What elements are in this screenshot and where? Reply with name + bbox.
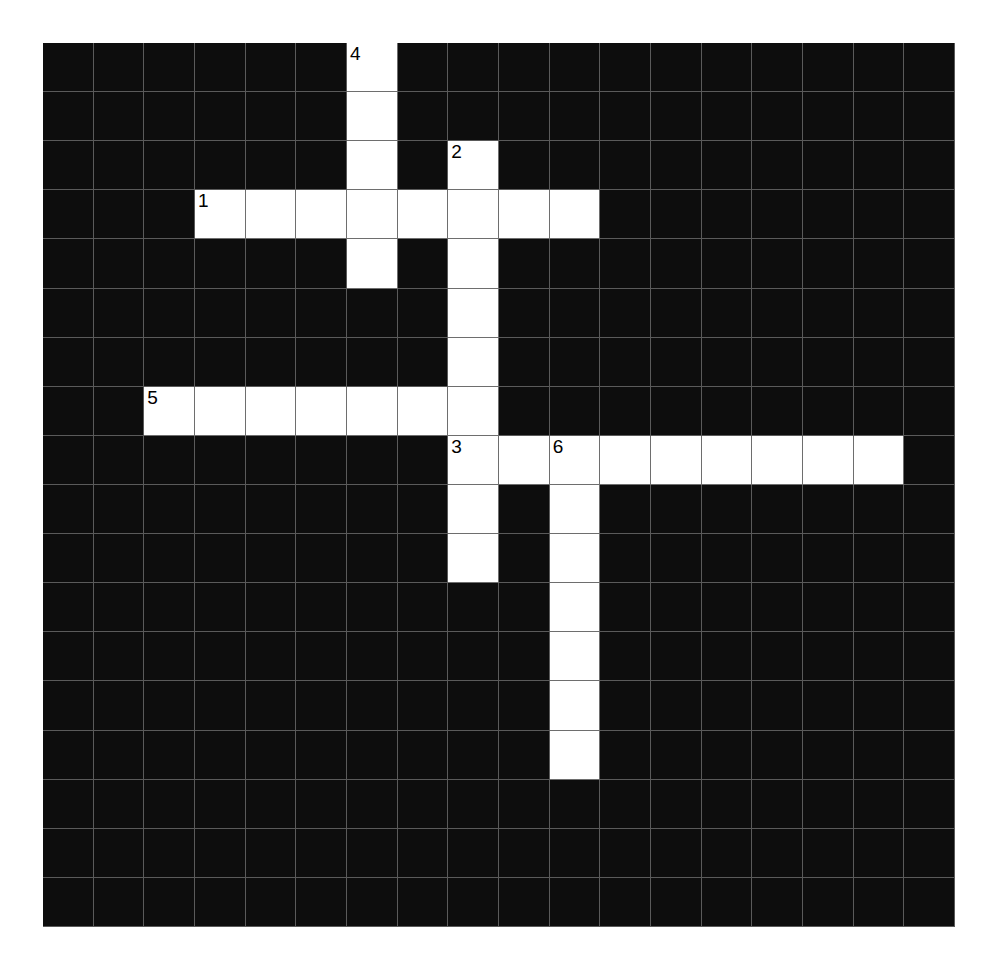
crossword-cell-open[interactable] — [550, 731, 601, 780]
crossword-cell-block — [398, 239, 449, 288]
cell-number-1: 1 — [198, 190, 209, 212]
crossword-cell-block — [144, 289, 195, 338]
crossword-cell-open[interactable]: 6 — [550, 436, 601, 485]
crossword-cell-open[interactable] — [448, 190, 499, 239]
crossword-cell-open[interactable] — [448, 534, 499, 583]
crossword-cell-block — [803, 387, 854, 436]
crossword-cell-open[interactable] — [448, 338, 499, 387]
cell-number-2: 2 — [451, 141, 462, 163]
crossword-cell-open[interactable] — [550, 583, 601, 632]
crossword-cell-block — [246, 731, 297, 780]
crossword-cell-open[interactable]: 4 — [347, 43, 398, 92]
crossword-cell-block — [854, 141, 905, 190]
crossword-cell-block — [246, 485, 297, 534]
crossword-cell-block — [550, 239, 601, 288]
crossword-cell-block — [854, 780, 905, 829]
crossword-cell-open[interactable] — [550, 681, 601, 730]
crossword-cell-block — [195, 534, 246, 583]
crossword-cell-block — [904, 190, 955, 239]
crossword-cell-block — [398, 43, 449, 92]
crossword-cell-block — [499, 829, 550, 878]
crossword-cell-open[interactable] — [550, 190, 601, 239]
crossword-cell-open[interactable] — [347, 239, 398, 288]
crossword-cell-block — [651, 92, 702, 141]
crossword-cell-block — [904, 829, 955, 878]
crossword-cell-open[interactable] — [347, 190, 398, 239]
crossword-cell-block — [296, 731, 347, 780]
crossword-cell-open[interactable] — [854, 436, 905, 485]
crossword-cell-block — [195, 43, 246, 92]
crossword-cell-open[interactable] — [347, 141, 398, 190]
crossword-cell-open[interactable] — [448, 289, 499, 338]
crossword-cell-block — [600, 387, 651, 436]
crossword-cell-open[interactable]: 1 — [195, 190, 246, 239]
crossword-cell-block — [803, 583, 854, 632]
crossword-cell-open[interactable] — [651, 436, 702, 485]
crossword-cell-open[interactable] — [296, 190, 347, 239]
crossword-cell-block — [43, 731, 94, 780]
crossword-cell-block — [499, 92, 550, 141]
crossword-cell-open[interactable] — [550, 534, 601, 583]
crossword-cell-open[interactable] — [550, 485, 601, 534]
crossword-cell-block — [854, 583, 905, 632]
crossword-cell-open[interactable] — [246, 387, 297, 436]
crossword-cell-open[interactable] — [398, 387, 449, 436]
crossword-cell-open[interactable] — [296, 387, 347, 436]
crossword-cell-block — [94, 534, 145, 583]
crossword-cell-open[interactable] — [499, 436, 550, 485]
crossword-cell-block — [550, 289, 601, 338]
crossword-cell-block — [296, 780, 347, 829]
crossword-cell-block — [398, 878, 449, 927]
crossword-cell-block — [904, 239, 955, 288]
crossword-cell-block — [803, 829, 854, 878]
crossword-cell-block — [43, 632, 94, 681]
crossword-cell-block — [752, 141, 803, 190]
crossword-cell-block — [803, 681, 854, 730]
crossword-cell-open[interactable]: 3 — [448, 436, 499, 485]
crossword-cell-block — [144, 141, 195, 190]
crossword-cell-block — [347, 338, 398, 387]
crossword-cell-block — [499, 583, 550, 632]
crossword-cell-block — [904, 289, 955, 338]
crossword-cell-block — [702, 534, 753, 583]
crossword-cell-block — [347, 583, 398, 632]
crossword-cell-block — [550, 141, 601, 190]
crossword-cell-block — [752, 239, 803, 288]
crossword-cell-block — [651, 289, 702, 338]
crossword-cell-open[interactable] — [347, 92, 398, 141]
crossword-cell-block — [246, 92, 297, 141]
crossword-cell-open[interactable] — [600, 436, 651, 485]
crossword-cell-open[interactable] — [499, 190, 550, 239]
crossword-cell-open[interactable] — [398, 190, 449, 239]
crossword-cell-block — [94, 92, 145, 141]
crossword-cell-block — [195, 239, 246, 288]
crossword-cell-open[interactable] — [702, 436, 753, 485]
crossword-cell-block — [246, 141, 297, 190]
crossword-cell-open[interactable] — [246, 190, 297, 239]
crossword-cell-open[interactable] — [195, 387, 246, 436]
crossword-cell-block — [651, 338, 702, 387]
crossword-cell-block — [94, 731, 145, 780]
crossword-cell-open[interactable] — [803, 436, 854, 485]
crossword-grid[interactable]: 421536 — [43, 43, 955, 927]
crossword-cell-block — [651, 534, 702, 583]
crossword-cell-block — [94, 387, 145, 436]
crossword-cell-block — [499, 534, 550, 583]
crossword-cell-open[interactable] — [550, 632, 601, 681]
crossword-cell-block — [651, 878, 702, 927]
crossword-cell-block — [43, 239, 94, 288]
crossword-cell-block — [94, 485, 145, 534]
crossword-cell-open[interactable] — [448, 485, 499, 534]
crossword-cell-open[interactable] — [347, 387, 398, 436]
crossword-cell-block — [448, 43, 499, 92]
crossword-cell-open[interactable]: 5 — [144, 387, 195, 436]
crossword-cell-block — [752, 387, 803, 436]
crossword-cell-block — [448, 829, 499, 878]
crossword-cell-open[interactable] — [448, 239, 499, 288]
crossword-cell-block — [195, 681, 246, 730]
crossword-cell-block — [651, 681, 702, 730]
crossword-cell-open[interactable] — [448, 387, 499, 436]
crossword-cell-open[interactable]: 2 — [448, 141, 499, 190]
crossword-cell-open[interactable] — [752, 436, 803, 485]
crossword-cell-block — [246, 436, 297, 485]
